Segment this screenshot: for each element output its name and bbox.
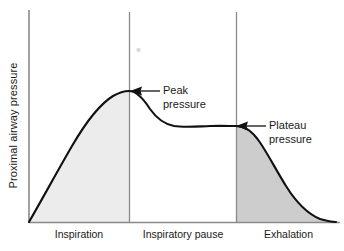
peak-pressure-label-line1: Peak — [163, 84, 206, 98]
scan-speck-artifact — [136, 48, 140, 52]
plateau-pressure-label-line1: Plateau — [269, 119, 312, 133]
plateau-pressure-label-line2: pressure — [269, 133, 312, 147]
y-axis-title: Proximal airway pressure — [2, 0, 24, 251]
phase-label-exhalation: Exhalation — [237, 228, 340, 240]
phase-label-inspiratory-pause: Inspiratory pause — [129, 228, 237, 240]
peak-pressure-callout: Peak pressure — [163, 84, 206, 111]
peak-pressure-label-line2: pressure — [163, 98, 206, 112]
phase-label-inspiration: Inspiration — [29, 228, 129, 240]
plateau-pressure-callout: Plateau pressure — [269, 119, 312, 146]
inspiration-fill-area — [29, 91, 129, 222]
ventilator-pressure-waveform-figure: Proximal airway pressure Inspiration Ins… — [0, 0, 344, 251]
